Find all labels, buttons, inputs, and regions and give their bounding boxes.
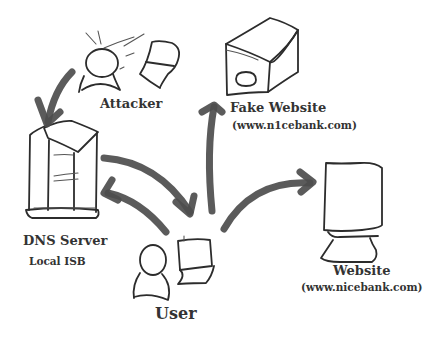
arrow-attacker-to-dns [38, 72, 72, 124]
user-label: User [155, 306, 197, 322]
dns-server-icon [26, 121, 99, 218]
website-icon [321, 163, 382, 262]
website-url: (www.nicebank.com) [301, 282, 423, 293]
arrow-dns-to-user [104, 158, 194, 214]
fake-website-url: (www.n1cebank.com) [232, 120, 357, 131]
website-label: Website [333, 264, 390, 277]
arrow-user-to-website [224, 172, 313, 229]
dns-server-label: DNS Server [23, 234, 107, 247]
fake-website-icon [226, 18, 298, 95]
attacker-icon [79, 31, 179, 92]
attacker-label: Attacker [100, 97, 162, 110]
user-icon [134, 236, 214, 300]
arrow-user-to-dns [104, 180, 166, 232]
dns-server-sublabel: Local ISB [29, 256, 86, 267]
fake-website-label: Fake Website [230, 101, 326, 114]
arrow-user-to-fake-website [202, 105, 222, 211]
